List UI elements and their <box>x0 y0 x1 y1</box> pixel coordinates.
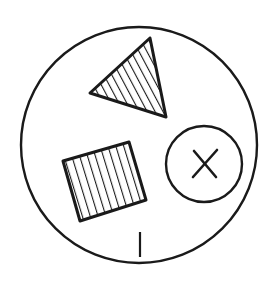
hatched-triangle <box>90 38 166 117</box>
diagram-canvas <box>0 0 274 284</box>
x-circle <box>166 126 242 202</box>
x-mark-icon <box>193 150 217 177</box>
hatched-square <box>63 142 146 221</box>
